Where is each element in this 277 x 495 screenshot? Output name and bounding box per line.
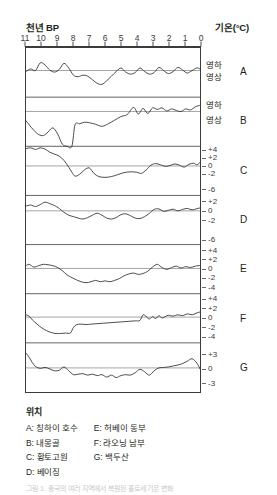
legend-title: 위치 [26, 405, 251, 418]
panel-G-tick-0: 0 [208, 364, 212, 373]
panel-G-tick-+3: +3 [208, 350, 217, 359]
panel-D-tickmark--2 [202, 220, 206, 221]
panel-D-tickmark--6 [202, 240, 206, 241]
panel-C-tick--6: -6 [208, 185, 215, 194]
panel-F-tickmark-0 [202, 318, 206, 319]
panel-F-tick-+4: +4 [208, 294, 217, 303]
legend-column-right: E: 허베이 동부F: 랴오닝 남부G: 백두산 [94, 421, 146, 477]
legend-entry-right-2: G: 백두산 [94, 450, 146, 462]
panel-E-tick-+4: +4 [208, 246, 217, 255]
figure-caption: 그림 1. 중국의 여러 지역에서 복원된 홀로세 기온 변화 [26, 483, 256, 493]
y-axis-title: 기온(°C) [215, 20, 249, 34]
series-line-F [26, 312, 200, 334]
panel-G-tickmark-0 [202, 369, 206, 370]
panel-D-tick--2: -2 [208, 216, 215, 225]
panel-F-tick--4: -4 [208, 332, 215, 341]
panel-label-A: A [240, 66, 247, 77]
panel-E-tickmark--4 [202, 287, 206, 288]
panel-D-tickmark-+2 [202, 201, 206, 202]
legend-entry-right-0: E: 허베이 동부 [94, 421, 146, 433]
series-line-C [26, 148, 200, 178]
panel-F-tick-0: 0 [208, 313, 212, 322]
series-line-A [26, 63, 200, 85]
panel-G-tickmark-+3 [202, 354, 206, 355]
plot-area [25, 47, 201, 393]
panel-C-tick--2: -2 [208, 169, 215, 178]
series-line-E [26, 264, 200, 282]
panel-E-tick--4: -4 [208, 283, 215, 292]
panel-label-C: C [240, 165, 247, 176]
panel-label-F: F [240, 313, 246, 324]
panel-C-tickmark--2 [202, 174, 206, 175]
panel-C-tick-+2: +2 [208, 153, 217, 162]
panel-E-tick-0: 0 [208, 264, 212, 273]
legend-entry-left-2: C: 황토고원 [26, 450, 78, 462]
legend-entry-left-0: A: 칭하이 호수 [26, 421, 78, 433]
panel-C-tick-0: 0 [208, 161, 212, 170]
panel-E-tickmark-+4 [202, 250, 206, 251]
paleoclimate-figure: 천년 BP 기온(°C) 11109876543210 영하영상A영하영상B-6… [0, 0, 277, 495]
panel-F-tick-+2: +2 [208, 304, 217, 313]
panel-C-tickmark-0 [202, 166, 206, 167]
panel-E-tickmark--2 [202, 278, 206, 279]
legend-entry-left-3: D: 베이징 [26, 465, 78, 477]
series-line-G [26, 353, 200, 378]
panel-F-tickmark--2 [202, 327, 206, 328]
panel-E-tickmark-+2 [202, 259, 206, 260]
panel-label-E: E [240, 263, 247, 274]
x-axis-title: 천년 BP [26, 20, 59, 34]
panel-B-tick-영하: 영하 [206, 98, 222, 110]
panel-E-tick-+2: +2 [208, 255, 217, 264]
panel-F-tick--2: -2 [208, 323, 215, 332]
panel-A-tick-영상: 영상 [206, 70, 222, 82]
panel-D-tickmark-0 [202, 211, 206, 212]
x-axis-ticks [24, 39, 202, 47]
panel-C-tickmark-+2 [202, 158, 206, 159]
panel-E-tickmark-0 [202, 269, 206, 270]
panel-B-tick-영상: 영상 [206, 113, 222, 125]
panel-A-tick-영하: 영하 [206, 58, 222, 70]
panel-F-tickmark-+2 [202, 308, 206, 309]
panel-D-tick-0: 0 [208, 206, 212, 215]
panel-C-tick-+4: +4 [208, 145, 217, 154]
legend: 위치 A: 칭하이 호수B: 내몽골C: 황토고원D: 베이징 E: 허베이 동… [26, 405, 251, 477]
panel-label-B: B [240, 115, 247, 126]
panel-C-tickmark-+4 [202, 150, 206, 151]
series-canvas [26, 48, 200, 392]
legend-entry-right-1: F: 랴오닝 남부 [94, 436, 146, 448]
panel-D-tick-+2: +2 [208, 197, 217, 206]
legend-columns: A: 칭하이 호수B: 내몽골C: 황토고원D: 베이징 E: 허베이 동부F:… [26, 421, 251, 477]
panel-C-tickmark--6 [202, 189, 206, 190]
panel-label-G: G [240, 362, 248, 373]
legend-column-left: A: 칭하이 호수B: 내몽골C: 황토고원D: 베이징 [26, 421, 78, 477]
legend-entry-left-1: B: 내몽골 [26, 436, 78, 448]
panel-F-tickmark-+4 [202, 299, 206, 300]
panel-E-tick--2: -2 [208, 273, 215, 282]
panel-F-tickmark--4 [202, 337, 206, 338]
panel-D-tick--6: -6 [208, 235, 215, 244]
panel-G-tick--3: -3 [208, 379, 215, 388]
panel-G-tickmark--3 [202, 383, 206, 384]
panel-label-D: D [240, 214, 247, 225]
